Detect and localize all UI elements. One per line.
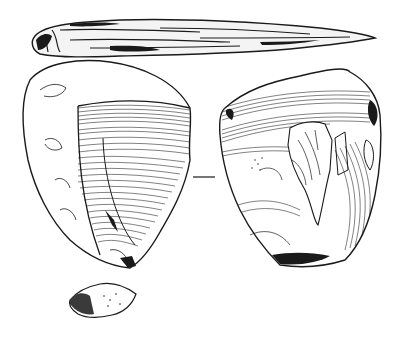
platform-view: [69, 283, 136, 317]
artifact-figure: [0, 0, 409, 344]
ventral-view: [220, 69, 381, 267]
profile-view: [32, 19, 375, 56]
dorsal-view: [23, 61, 191, 268]
